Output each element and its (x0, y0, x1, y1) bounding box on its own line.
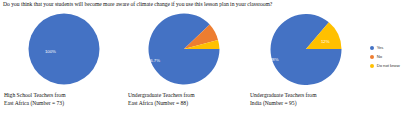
pie-panel-undergraduate-east-africa: 86.7% (148, 13, 220, 85)
legend-item-yes: Yes (370, 44, 414, 52)
legend-label-no: No (377, 54, 382, 59)
pie-chart-figure: Do you think that your students will bec… (0, 0, 414, 119)
pie-chart-2 (148, 13, 220, 85)
panel-caption-1: High School Teachers from East Africa (N… (4, 92, 66, 107)
pie-panel-high-school-east-africa: 100% (28, 13, 100, 85)
chart-legend: Yes No Do not know (370, 44, 414, 71)
pie-wrap: 86.7% (148, 13, 220, 85)
pie-chart-3 (270, 13, 342, 85)
legend-swatch-no-icon (370, 55, 374, 59)
legend-label-do-not-know: Do not know (377, 63, 400, 68)
caption-line-2: East Africa (Number = 73) (4, 100, 66, 108)
legend-swatch-yes-icon (370, 46, 374, 50)
caption-line-1: Undergraduate Teachers from (128, 92, 195, 100)
legend-swatch-do-not-know-icon (370, 64, 374, 68)
pie-wrap: 88% 12% (270, 13, 342, 85)
caption-line-2: India (Number = 95) (250, 100, 317, 108)
caption-line-1: Undergraduate Teachers from (250, 92, 317, 100)
legend-item-do-not-know: Do not know (370, 62, 414, 70)
chart-title: Do you think that your students will bec… (3, 1, 411, 8)
pie-chart-1 (28, 13, 100, 85)
legend-item-no: No (370, 53, 414, 61)
caption-line-1: High School Teachers from (4, 92, 66, 100)
legend-label-yes: Yes (377, 45, 384, 50)
pie-wrap: 100% (28, 13, 100, 85)
panel-caption-3: Undergraduate Teachers from India (Numbe… (250, 92, 317, 107)
panel-caption-2: Undergraduate Teachers from East Africa … (128, 92, 195, 107)
caption-line-2: East Africa (Number = 88) (128, 100, 195, 108)
pie-panel-undergraduate-india: 88% 12% (270, 13, 342, 85)
